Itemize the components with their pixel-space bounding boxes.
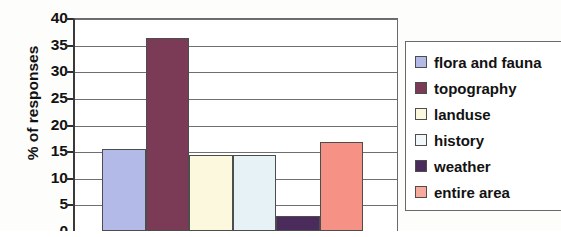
legend-item[interactable]: entire area xyxy=(415,179,561,205)
bar xyxy=(102,149,146,231)
y-axis-tick-label: 40 xyxy=(28,10,68,26)
legend-item[interactable]: topography xyxy=(415,75,561,101)
bar xyxy=(233,155,277,231)
y-axis-tick-label: 25 xyxy=(28,90,68,106)
bar xyxy=(146,38,190,231)
legend-item[interactable]: landuse xyxy=(415,101,561,127)
legend-label: entire area xyxy=(434,185,510,200)
legend-swatch-icon xyxy=(415,160,427,172)
bar xyxy=(320,142,364,231)
legend-item[interactable]: weather xyxy=(415,153,561,179)
legend-label: flora and fauna xyxy=(434,55,542,70)
legend-swatch-icon xyxy=(415,56,427,68)
y-axis-tick-label: 20 xyxy=(28,117,68,133)
legend-swatch-icon xyxy=(415,108,427,120)
bar-chart: % of responses 4035302520151050 flora an… xyxy=(0,0,561,237)
legend-item[interactable]: history xyxy=(415,127,561,153)
legend-label: topography xyxy=(434,81,517,96)
y-axis-tick-label: 35 xyxy=(28,37,68,53)
legend-label: landuse xyxy=(434,107,491,122)
bar xyxy=(276,216,320,231)
legend-swatch-icon xyxy=(415,82,427,94)
legend-label: history xyxy=(434,133,484,148)
y-axis-tick-label: 30 xyxy=(28,64,68,80)
bar xyxy=(189,155,233,231)
y-axis-tick-label: 5 xyxy=(28,197,68,213)
y-axis-tick-label: 10 xyxy=(28,170,68,186)
legend-item[interactable]: flora and fauna xyxy=(415,49,561,75)
legend-swatch-icon xyxy=(415,134,427,146)
bottom-crop-band xyxy=(0,231,561,237)
plot-area xyxy=(73,18,398,231)
legend-label: weather xyxy=(434,159,491,174)
chart-legend: flora and faunatopographylandusehistoryw… xyxy=(405,41,561,211)
y-axis-tick-label: 15 xyxy=(28,143,68,159)
bar-group xyxy=(75,19,397,231)
y-axis-tick-labels: 4035302520151050 xyxy=(28,0,68,237)
legend-swatch-icon xyxy=(415,186,427,198)
